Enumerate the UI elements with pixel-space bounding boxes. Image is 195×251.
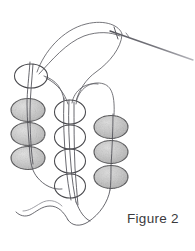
figure-caption: Figure 2 <box>127 211 179 226</box>
bead-left-1 <box>11 99 45 122</box>
bottom-tail-thread <box>16 206 68 220</box>
beading-needle <box>110 27 193 60</box>
upper-loop-thread-inner <box>76 35 122 101</box>
figure-container: Figure 2 <box>0 0 195 251</box>
upper-loop-thread-outer <box>39 33 120 74</box>
bead-left-3 <box>11 147 45 170</box>
needle-shaft <box>110 31 193 60</box>
needle-working-thread-b <box>46 78 68 104</box>
bottom-tail-thread-b <box>23 201 62 211</box>
upper-loop-thread <box>37 22 122 72</box>
bead-right-1 <box>94 116 128 139</box>
middle-column-thread-2 <box>69 100 76 202</box>
open-bead-middle-2 <box>55 125 86 149</box>
open-bead-middle-1 <box>55 100 86 124</box>
middle-column-thread-3 <box>74 102 78 205</box>
